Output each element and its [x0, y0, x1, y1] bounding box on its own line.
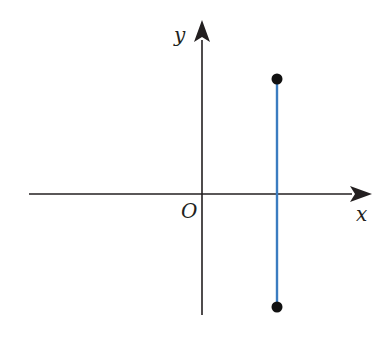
vertical-segment	[272, 74, 283, 313]
origin-label: O	[181, 199, 197, 223]
x-axis-label: x	[356, 202, 367, 226]
y-axis	[194, 20, 210, 315]
segment-top-endpoint	[272, 74, 283, 85]
y-axis-arrow-icon	[194, 20, 210, 42]
x-axis	[29, 186, 372, 202]
y-axis-label: y	[173, 23, 186, 47]
segment-bottom-endpoint	[272, 302, 283, 313]
x-axis-arrow-icon	[350, 186, 372, 202]
coordinate-diagram: y x O	[0, 0, 390, 345]
